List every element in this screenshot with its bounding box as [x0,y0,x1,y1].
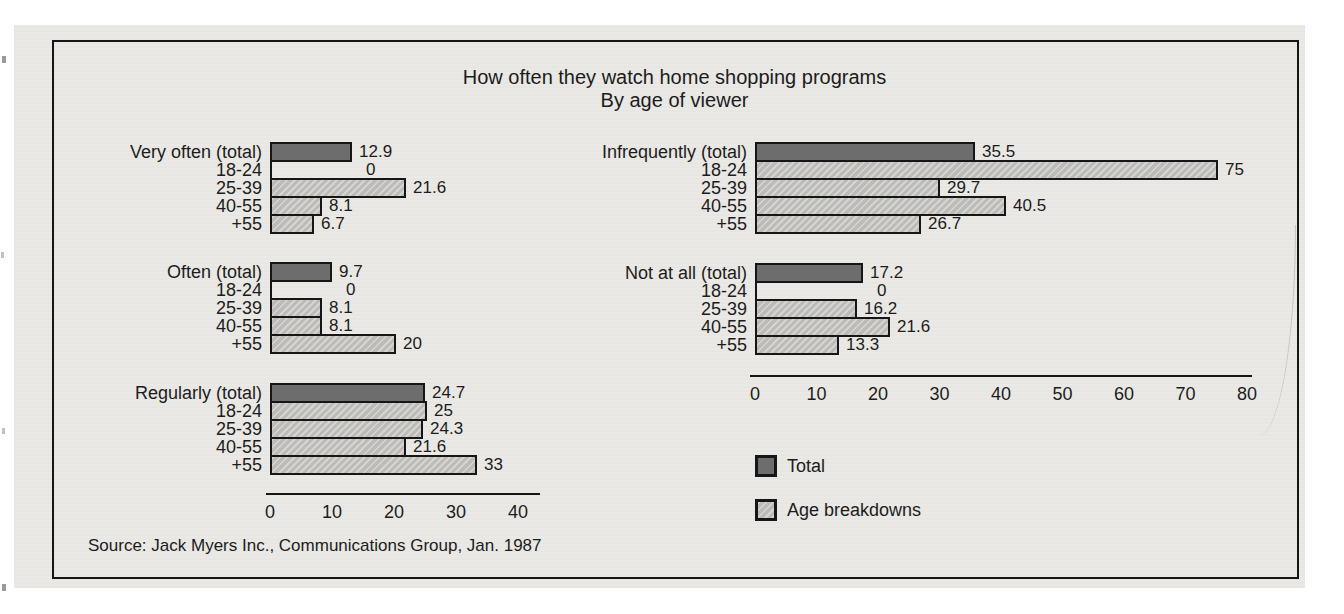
bar-group-often: Often (total)9.718-24025-398.140-558.1+5… [90,262,560,354]
bar-cell: 17.2 [755,263,1295,283]
chart-row: 25-398.1 [90,298,560,318]
bar-value-label: 8.1 [329,298,353,318]
chart-row: 40-5540.5 [575,196,1295,216]
chart-row: 18-240 [90,160,560,180]
left-chart-panel: Very often (total)12.918-24025-3921.640-… [90,134,560,527]
row-label: +55 [90,214,270,234]
total-swatch-icon [755,455,777,477]
chart-row: 25-3929.7 [575,178,1295,198]
bar-value-label: 0 [877,281,886,301]
row-label: 18-24 [90,280,270,300]
chart-row: +5520 [90,334,560,354]
row-label: 25-39 [575,299,755,319]
bar-cell: 8.1 [270,298,560,318]
bar-value-label: 29.7 [947,178,980,198]
bar-group-very-often: Very often (total)12.918-24025-3921.640-… [90,142,560,234]
bar-value-label: 8.1 [329,316,353,336]
row-label: 18-24 [90,160,270,180]
x-axis-tick-label: 60 [1114,385,1134,403]
bar-value-label: 26.7 [928,214,961,234]
row-label: 40-55 [90,196,270,216]
bar-cell: 21.6 [270,437,560,457]
row-label: 18-24 [90,401,270,421]
bar-value-label: 21.6 [897,317,930,337]
row-label: Not at all (total) [575,263,755,283]
scan-speck [1,252,4,258]
chart-row: +556.7 [90,214,560,234]
bar-value-label: 35.5 [982,142,1015,162]
bar-value-label: 33 [484,455,503,475]
x-axis-tick-label: 40 [508,503,528,521]
chart-row: 40-558.1 [90,316,560,336]
x-axis-tick-label: 40 [991,385,1011,403]
x-axis-tick-label: 70 [1175,385,1195,403]
scan-speck [2,584,6,591]
bar-cell: 0 [270,160,560,180]
row-label: +55 [575,335,755,355]
bar-value-label: 20 [403,334,422,354]
age-bar [757,299,857,319]
x-axis: 01020304050607080 [750,375,1252,409]
chart-row: Not at all (total)17.2 [575,263,1295,283]
bar-cell: 24.7 [270,383,560,403]
chart-row: +5513.3 [575,335,1295,355]
row-label: 25-39 [90,178,270,198]
age-bar [757,196,1006,216]
bar-value-label: 21.6 [413,178,446,198]
chart-title-block: How often they watch home shopping progr… [52,66,1297,112]
bar-cell: 26.7 [755,214,1295,234]
chart-row: Very often (total)12.9 [90,142,560,162]
chart-row: +5526.7 [575,214,1295,234]
row-label: 25-39 [90,298,270,318]
row-label: +55 [575,214,755,234]
row-label: +55 [90,455,270,475]
age-bar [272,334,396,354]
bar-value-label: 12.9 [359,142,392,162]
bar-value-label: 16.2 [864,299,897,319]
bar-cell: 21.6 [270,178,560,198]
x-axis-tick-label: 20 [384,503,404,521]
chart-row: 18-2475 [575,160,1295,180]
total-bar [757,263,863,283]
chart-row: 40-558.1 [90,196,560,216]
row-label: 40-55 [90,316,270,336]
age-bar [272,419,423,439]
chart-row: Infrequently (total)35.5 [575,142,1295,162]
bar-cell: 21.6 [755,317,1295,337]
total-bar [272,383,425,403]
bar-value-label: 8.1 [329,196,353,216]
age-bar [272,455,477,475]
total-bar [272,262,332,282]
age-breakdowns-swatch-icon [755,499,777,521]
age-bar [272,196,322,216]
bar-value-label: 24.3 [430,419,463,439]
legend: Total Age breakdowns [755,453,921,523]
bar-cell: 9.7 [270,262,560,282]
bar-cell: 12.9 [270,142,560,162]
row-label: 18-24 [575,160,755,180]
chart-row: Often (total)9.7 [90,262,560,282]
bar-value-label: 0 [366,160,375,180]
x-axis-tick-label: 20 [868,385,888,403]
bar-value-label: 40.5 [1013,196,1046,216]
legend-label-age: Age breakdowns [787,500,921,521]
bar-value-label: 24.7 [432,383,465,403]
x-axis: 010203040 [266,493,540,527]
row-label: Often (total) [90,262,270,282]
bar-cell: 8.1 [270,316,560,336]
bar-value-label: 25 [434,401,453,421]
bar-cell: 75 [755,160,1295,180]
x-axis-tick-label: 0 [750,385,760,403]
x-axis-tick-label: 30 [446,503,466,521]
row-label: Infrequently (total) [575,142,755,162]
bar-group-regularly: Regularly (total)24.718-242525-3924.340-… [90,383,560,475]
row-label: Very often (total) [90,142,270,162]
x-axis-tick-label: 30 [929,385,949,403]
legend-item-total: Total [755,453,921,479]
bar-group-not-at-all: Not at all (total)17.218-24025-3916.240-… [575,263,1295,355]
chart-row: 25-3916.2 [575,299,1295,319]
row-label: 18-24 [575,281,755,301]
bar-cell: 0 [755,281,1295,301]
row-label: 40-55 [575,317,755,337]
x-axis-tick-label: 10 [322,503,342,521]
